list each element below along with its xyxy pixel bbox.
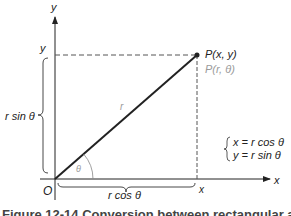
equation-x: x = r cos θ (232, 136, 284, 148)
horizontal-brace-label: r cos θ (108, 189, 141, 201)
y-axis-label: y (50, 1, 58, 13)
cartesian-point-label: P(x, y) (205, 48, 237, 60)
equation-brace (224, 137, 230, 161)
angle-label: θ (76, 164, 81, 174)
origin-label: O (43, 184, 52, 198)
vertical-brace (38, 58, 48, 173)
radius-line (55, 55, 197, 179)
figure-caption: Figure 12-14 Conversion between rectangu… (2, 205, 291, 216)
polar-point-label: P(r, θ) (205, 63, 235, 75)
polar-coordinates-diagram: y x O y x P(x, y) P(r, θ) r θ r sin θ r … (0, 0, 291, 216)
point-p (195, 53, 200, 58)
angle-arc (84, 154, 93, 179)
x-projection-label: x (198, 184, 205, 195)
vertical-brace-label: r sin θ (5, 110, 35, 122)
radius-label: r (120, 101, 124, 112)
equation-y: y = r sin θ (232, 149, 281, 161)
y-projection-label: y (39, 42, 47, 54)
x-axis-label: x (273, 174, 280, 186)
